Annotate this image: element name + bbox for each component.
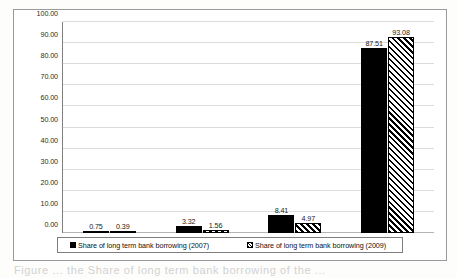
legend-entry-2009[interactable]: Share of long term bank borrowing (2009) — [247, 241, 386, 250]
page-caption-fragment: Figure ... the Share of long term bank b… — [14, 264, 326, 276]
chart-legend[interactable]: Share of long term bank borrowing (2007)… — [57, 237, 403, 253]
legend-swatch-hatch-icon — [247, 242, 253, 248]
bar-value-label: 4.97 — [302, 214, 316, 223]
bar-value-label: 3.32 — [182, 217, 196, 226]
legend-entry-2007[interactable]: Share of long term bank borrowing (2007) — [70, 241, 209, 250]
bar-q4-series0[interactable]: 87.51 — [361, 48, 387, 233]
y-axis-tick-label: 70.00 — [41, 72, 59, 81]
bar-q2-series1[interactable]: 1.56 — [203, 230, 229, 233]
bar-value-label: 1.56 — [209, 221, 223, 230]
legend-label-2009: Share of long term bank borrowing (2009) — [255, 241, 386, 250]
bar-q4-series1[interactable]: 93.08 — [388, 37, 414, 233]
bar-q1-series1[interactable]: 0.39 — [110, 231, 136, 233]
bar-q1-series0[interactable]: 0.75 — [83, 231, 109, 233]
bar-q3-series1[interactable]: 4.97 — [295, 223, 321, 233]
y-axis-tick-label: 80.00 — [41, 51, 59, 60]
legend-label-2007: Share of long term bank borrowing (2007) — [78, 241, 209, 250]
y-axis-tick-label: 100.00 — [37, 9, 58, 18]
bar-value-label: 0.39 — [116, 222, 130, 231]
bar-value-label: 93.08 — [392, 28, 410, 37]
y-axis-tick-label: 60.00 — [41, 93, 59, 102]
bar-value-label: 0.75 — [89, 222, 103, 231]
plot-area: 0.0010.0020.0030.0040.0050.0060.0070.008… — [62, 22, 434, 233]
y-axis-tick-label: 10.00 — [41, 198, 59, 207]
bar-value-label: 87.51 — [365, 39, 383, 48]
bar-group: 3.321.56Q2 — [156, 22, 249, 233]
y-axis-tick-label: 90.00 — [41, 30, 59, 39]
bar-q2-series0[interactable]: 3.32 — [176, 226, 202, 233]
bar-group: 0.750.39Q1 — [63, 22, 156, 233]
chart-frame: 0.0010.0020.0030.0040.0050.0060.0070.008… — [13, 9, 447, 261]
y-axis-tick-label: 20.00 — [41, 177, 59, 186]
y-axis-tick-label: 50.00 — [41, 114, 59, 123]
y-axis-tick-label: 0.00 — [44, 220, 58, 229]
bar-value-label: 8.41 — [275, 206, 289, 215]
legend-swatch-solid-icon — [70, 242, 76, 248]
bar-q3-series0[interactable]: 8.41 — [268, 215, 294, 233]
scanned-page: 0.0010.0020.0030.0040.0050.0060.0070.008… — [0, 0, 457, 278]
bar-group: 87.5193.08Q4 — [341, 22, 434, 233]
bar-group: 8.414.97Q3 — [249, 22, 342, 233]
y-axis-tick-label: 40.00 — [41, 135, 59, 144]
y-axis-tick-label: 30.00 — [41, 156, 59, 165]
